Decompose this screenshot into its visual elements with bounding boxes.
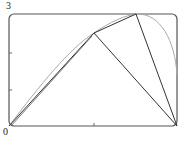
chord-A-B (94, 14, 136, 33)
plot-frame (9, 14, 177, 126)
chord-A-C (94, 33, 177, 126)
diagram-canvas (0, 0, 181, 141)
y-axis-top-label: 3 (6, 1, 11, 11)
origin-label: 0 (3, 127, 8, 137)
gray-curve (9, 14, 177, 126)
chord-origin-A (9, 33, 94, 126)
chord-B-C (136, 14, 177, 126)
chord-origin-A-2 (11, 36, 92, 126)
